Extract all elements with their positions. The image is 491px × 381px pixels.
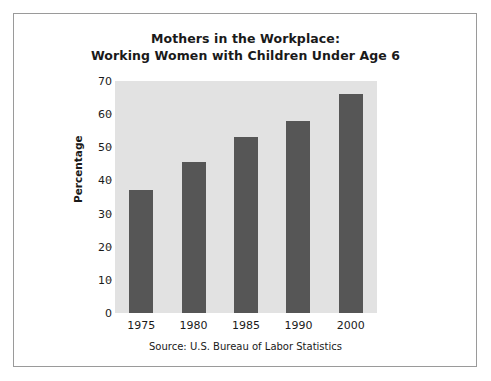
y-tick-mark (106, 147, 112, 148)
plot-area (115, 81, 377, 313)
bar-2000 (339, 94, 363, 313)
chart-figure: Mothers in the Workplace: Working Women … (0, 0, 491, 381)
bar-1975 (129, 190, 153, 313)
x-tick-label: 1985 (216, 319, 276, 332)
y-tick-label: 40 (19, 174, 115, 187)
y-tick-label: 60 (19, 108, 115, 121)
y-tick-mark (106, 180, 112, 181)
y-tick-label: 30 (19, 207, 115, 220)
x-tick-label: 1990 (268, 319, 328, 332)
y-tick-label: 50 (19, 141, 115, 154)
y-tick-mark (106, 114, 112, 115)
source-note: Source: U.S. Bureau of Labor Statistics (0, 341, 491, 352)
y-tick-label: 0 (19, 307, 115, 320)
y-tick-label: 10 (19, 273, 115, 286)
y-tick-mark (106, 213, 112, 214)
y-tick-mark (106, 279, 112, 280)
x-tick-label: 1980 (164, 319, 224, 332)
bar-1990 (286, 121, 310, 313)
bar-1985 (234, 137, 258, 313)
y-tick-label: 20 (19, 240, 115, 253)
y-tick-label: 70 (19, 75, 115, 88)
bar-1980 (182, 162, 206, 313)
y-tick-mark (106, 246, 112, 247)
x-tick-label: 2000 (321, 319, 381, 332)
y-axis: Percentage 010203040506070 (0, 0, 115, 381)
x-tick-label: 1975 (111, 319, 171, 332)
